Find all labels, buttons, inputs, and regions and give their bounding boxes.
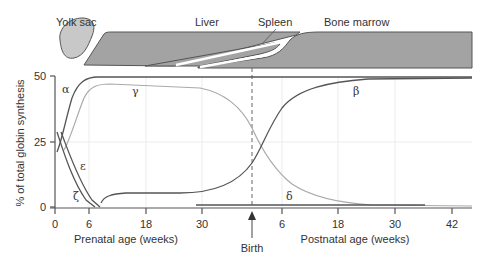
x-tick-post-6: 6 bbox=[279, 218, 285, 230]
x-axis bbox=[50, 208, 472, 214]
y-axis bbox=[50, 76, 55, 208]
globin-synthesis-chart: Yolk sac Liver Spleen Bone marrow 50 25 … bbox=[0, 0, 488, 262]
grid bbox=[60, 78, 472, 207]
postnatal-axis-label: Postnatal age (weeks) bbox=[301, 233, 410, 245]
x-tick-pre-18: 18 bbox=[140, 218, 152, 230]
alpha-label: α bbox=[62, 83, 70, 96]
yolk-sac-label: Yolk sac bbox=[56, 16, 97, 28]
bone-marrow-label: Bone marrow bbox=[324, 16, 389, 28]
x-tick-pre-30: 30 bbox=[196, 218, 208, 230]
y-tick-25: 25 bbox=[34, 136, 46, 148]
zeta-label: ζ bbox=[73, 190, 79, 203]
birth-arrow-icon bbox=[248, 211, 256, 220]
gamma-label: γ bbox=[132, 85, 139, 98]
y-axis-label: % of total globin synthesis bbox=[14, 79, 26, 207]
x-tick-pre-6: 6 bbox=[86, 218, 92, 230]
spleen-label: Spleen bbox=[258, 16, 292, 28]
delta-label: δ bbox=[286, 190, 293, 203]
beta-curve bbox=[101, 78, 472, 203]
birth-label: Birth bbox=[241, 242, 264, 254]
beta-label: β bbox=[353, 85, 359, 98]
y-tick-50: 50 bbox=[34, 70, 46, 82]
liver-label: Liver bbox=[195, 16, 219, 28]
gamma-curve bbox=[64, 84, 472, 206]
x-tick-post-30: 30 bbox=[389, 218, 401, 230]
x-tick-pre-0: 0 bbox=[52, 218, 58, 230]
x-tick-post-18: 18 bbox=[332, 218, 344, 230]
prenatal-axis-label: Prenatal age (weeks) bbox=[74, 233, 178, 245]
x-tick-post-42: 42 bbox=[446, 218, 458, 230]
y-tick-0: 0 bbox=[40, 201, 46, 213]
epsilon-label: ε bbox=[80, 160, 86, 173]
